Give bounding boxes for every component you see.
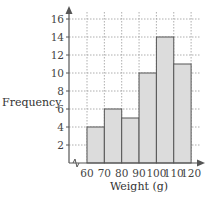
histogram-bar <box>87 127 104 163</box>
y-tick-label: 4 <box>57 121 64 133</box>
x-tick-label: 80 <box>115 167 128 179</box>
x-axis-label: Weight (g) <box>110 180 168 193</box>
x-tick-label: 120 <box>181 167 201 179</box>
y-tick-label: 14 <box>51 31 65 43</box>
histogram-bar <box>174 64 191 163</box>
histogram-bar <box>156 37 173 163</box>
histogram-bar <box>122 118 139 163</box>
histogram-chart: 24681012141660708090100110120 Frequency … <box>0 0 206 198</box>
x-tick-label: 70 <box>98 167 111 179</box>
histogram-bar <box>104 109 121 163</box>
histogram-bar <box>139 73 156 163</box>
y-axis-arrow-icon <box>66 6 73 14</box>
y-tick-label: 12 <box>51 49 64 61</box>
y-tick-label: 2 <box>57 139 64 151</box>
x-tick-label: 60 <box>80 167 93 179</box>
y-tick-label: 16 <box>51 13 65 25</box>
x-axis-arrow-icon <box>197 160 205 167</box>
x-tick-label: 90 <box>132 167 145 179</box>
bars <box>87 37 191 163</box>
y-tick-label: 10 <box>51 67 64 79</box>
y-axis-label: Frequency <box>2 96 62 109</box>
